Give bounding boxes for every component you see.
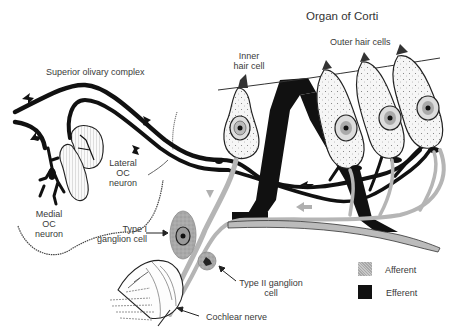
type-2-label-line1: Type II ganglion <box>236 278 306 288</box>
lateral-oc-label-line3: neuron <box>106 178 140 188</box>
type-1-ganglion-cell <box>170 211 196 259</box>
outer-hair-cells-label: Outer hair cells <box>330 37 391 47</box>
superior-olivary-complex-label: Superior olivary complex <box>46 67 145 77</box>
diagram-title: Organ of Corti <box>306 11 378 21</box>
inner-hair-cell-label: Inner hair cell <box>231 51 267 71</box>
medial-oc-neuron-label: Medial OC neuron <box>32 209 66 239</box>
legend-swatch-afferent <box>358 262 372 276</box>
inner-hair-cell-label-line2: hair cell <box>231 61 267 71</box>
inner-hair-cell <box>224 74 259 159</box>
legend-label-afferent: Afferent <box>385 265 416 275</box>
basilar-membrane <box>228 221 440 252</box>
cochlear-nerve-label: Cochlear nerve <box>206 312 267 322</box>
cochlear-nerve <box>110 260 183 326</box>
legend-swatch-efferent <box>358 285 372 299</box>
lateral-oc-neuron-label: Lateral OC neuron <box>106 158 140 188</box>
legend-label-efferent: Efferent <box>386 288 417 298</box>
arrow-icon <box>132 145 140 155</box>
medial-oc-label-line2: OC <box>32 219 66 229</box>
medial-oc-label-line1: Medial <box>32 209 66 219</box>
type-1-label-line1: Type I <box>93 224 147 234</box>
medial-oc-label-line3: neuron <box>32 229 66 239</box>
type-2-label-line2: cell <box>236 288 306 298</box>
type-1-ganglion-cell-label: Type I ganglion cell <box>93 224 147 244</box>
lateral-oc-label-line1: Lateral <box>106 158 140 168</box>
type-2-ganglion-cell-label: Type II ganglion cell <box>236 278 306 298</box>
lateral-oc-neuron <box>60 126 103 201</box>
lateral-oc-label-line2: OC <box>106 168 140 178</box>
arrow-icon <box>296 202 312 212</box>
arrow-icon <box>206 190 214 198</box>
type-1-label-line2: ganglion cell <box>93 234 147 244</box>
type-2-ganglion-cell <box>198 252 216 270</box>
inner-hair-cell-label-line1: Inner <box>231 51 267 61</box>
